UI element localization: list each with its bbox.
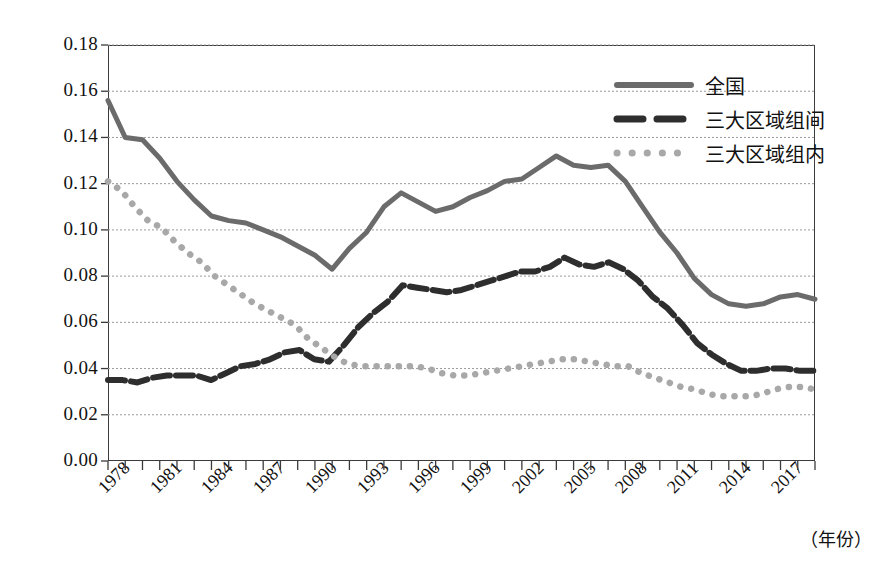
legend-swatch-solid-icon	[615, 75, 693, 95]
chart-container: 0.000.020.040.060.080.100.120.140.160.18…	[0, 0, 891, 571]
legend-label: 全国	[705, 71, 745, 100]
legend-swatch-dashed-icon	[615, 109, 693, 129]
legend-item[interactable]: 三大区域组间	[615, 102, 825, 136]
legend-item[interactable]: 全国	[615, 68, 825, 102]
legend-item[interactable]: 三大区域组内	[615, 136, 825, 170]
legend-swatch-dotted-icon	[615, 143, 693, 163]
legend-label: 三大区域组间	[705, 105, 825, 134]
chart-legend: 全国三大区域组间三大区域组内	[615, 68, 825, 170]
legend-label: 三大区域组内	[705, 139, 825, 168]
